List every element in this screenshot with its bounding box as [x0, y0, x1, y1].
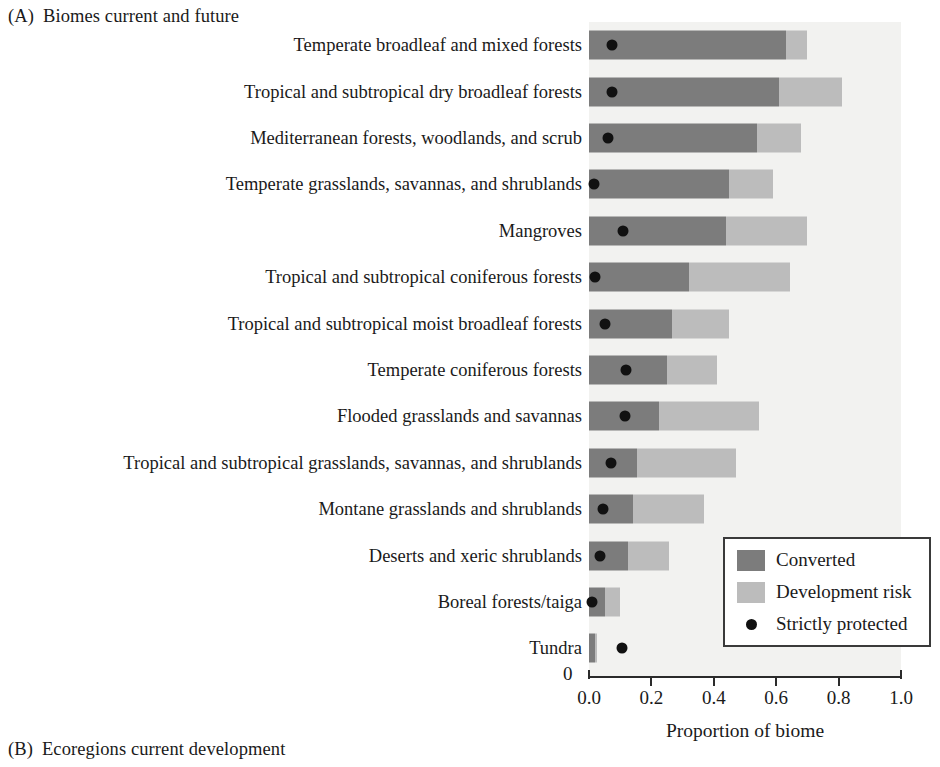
category-label: Tropical and subtropical grasslands, sav…: [123, 454, 582, 473]
bar-segment-development-risk: [729, 170, 773, 199]
category-label: Deserts and xeric shrublands: [369, 546, 582, 565]
bar-row: Temperate grasslands, savannas, and shru…: [0, 161, 940, 207]
strictly-protected-point: [602, 132, 613, 143]
y-axis-origin-label: 0: [563, 663, 573, 685]
bar-segment-development-risk: [637, 448, 735, 477]
panel-b-title-text: Ecoregions current development: [42, 739, 285, 759]
category-label: Temperate grasslands, savannas, and shru…: [226, 175, 582, 194]
legend-item-strictly-protected: Strictly protected: [737, 608, 907, 640]
x-tick-label-0: 0.0: [559, 687, 619, 709]
x-tick-2: [713, 677, 715, 686]
category-label: Boreal forests/taiga: [438, 593, 582, 612]
bar-row: Tropical and subtropical grasslands, sav…: [0, 440, 940, 486]
stacked-bar: [589, 263, 790, 292]
category-label: Flooded grasslands and savannas: [337, 407, 582, 426]
strictly-protected-point: [587, 596, 598, 607]
bar-row: Temperate coniferous forests: [0, 347, 940, 393]
category-label: Temperate coniferous forests: [368, 361, 582, 380]
legend-label-converted: Converted: [776, 549, 855, 571]
strictly-protected-point: [616, 643, 627, 654]
bar-row: Tropical and subtropical dry broadleaf f…: [0, 68, 940, 114]
strictly-protected-point: [594, 550, 605, 561]
strictly-protected-point: [599, 318, 610, 329]
category-label: Mediterranean forests, woodlands, and sc…: [250, 129, 582, 148]
bar-row: Tropical and subtropical coniferous fore…: [0, 254, 940, 300]
x-tick-label-3: 0.6: [746, 687, 806, 709]
strictly-protected-point: [598, 504, 609, 515]
x-axis-line: [588, 676, 901, 678]
bar-segment-development-risk: [757, 123, 801, 152]
strictly-protected-point: [618, 225, 629, 236]
strictly-protected-point: [607, 86, 618, 97]
stacked-bar: [589, 123, 801, 152]
x-tick-label-1: 0.2: [621, 687, 681, 709]
x-tick-5: [900, 670, 902, 679]
legend-swatch-strictly-protected-icon: [737, 614, 765, 635]
panel-b-title: (B)Ecoregions current development: [8, 739, 285, 760]
bar-row: Montane grasslands and shrublands: [0, 486, 940, 532]
bar-segment-development-risk: [633, 495, 705, 524]
legend-label-development-risk: Development risk: [776, 581, 912, 603]
x-tick-3: [775, 677, 777, 686]
strictly-protected-point: [619, 411, 630, 422]
strictly-protected-point: [590, 272, 601, 283]
strictly-protected-point: [605, 457, 616, 468]
bar-segment-development-risk: [786, 31, 808, 60]
category-label: Mangroves: [499, 222, 582, 241]
bar-segment-development-risk: [726, 216, 807, 245]
bar-segment-converted: [589, 31, 786, 60]
bar-segment-development-risk: [605, 587, 621, 616]
bar-segment-converted: [589, 495, 633, 524]
stacked-bar: [589, 31, 807, 60]
category-label: Tropical and subtropical coniferous fore…: [265, 268, 582, 287]
x-tick-label-5: 1.0: [871, 687, 931, 709]
x-axis-title: Proportion of biome: [589, 720, 901, 742]
bar-segment-development-risk: [659, 402, 759, 431]
bar-segment-converted: [589, 263, 689, 292]
bar-segment-development-risk: [628, 541, 669, 570]
legend-swatch-converted-icon: [737, 550, 765, 571]
x-tick-label-2: 0.4: [684, 687, 744, 709]
bar-row: Tropical and subtropical moist broadleaf…: [0, 300, 940, 346]
category-label: Montane grasslands and shrublands: [318, 500, 582, 519]
x-tick-0: [588, 670, 590, 679]
chart-legend: Converted Development risk Strictly prot…: [723, 537, 931, 647]
legend-label-strictly-protected: Strictly protected: [776, 613, 907, 635]
legend-swatch-development-risk-icon: [737, 582, 765, 603]
stacked-bar: [589, 634, 597, 663]
bar-segment-converted: [589, 123, 757, 152]
category-label: Tropical and subtropical moist broadleaf…: [228, 314, 582, 333]
bar-segment-converted: [589, 216, 726, 245]
stacked-bar: [589, 77, 842, 106]
bar-row: Mangroves: [0, 208, 940, 254]
category-label: Tundra: [529, 639, 582, 658]
strictly-protected-point: [621, 364, 632, 375]
category-label: Temperate broadleaf and mixed forests: [294, 36, 582, 55]
panel-b-tag: (B): [8, 739, 33, 759]
category-label: Tropical and subtropical dry broadleaf f…: [244, 82, 582, 101]
x-tick-4: [838, 677, 840, 686]
biomes-stacked-bar-chart: Temperate broadleaf and mixed forestsTro…: [0, 18, 940, 718]
x-tick-1: [650, 677, 652, 686]
bar-row: Flooded grasslands and savannas: [0, 393, 940, 439]
bar-segment-development-risk: [672, 309, 730, 338]
bar-segment-converted: [589, 170, 729, 199]
bar-segment-development-risk: [779, 77, 841, 106]
stacked-bar: [589, 170, 773, 199]
stacked-bar: [589, 355, 717, 384]
bar-segment-development-risk: [595, 634, 597, 663]
strictly-protected-point: [607, 40, 618, 51]
bar-segment-development-risk: [689, 263, 790, 292]
bar-segment-development-risk: [667, 355, 717, 384]
bar-row: Temperate broadleaf and mixed forests: [0, 22, 940, 68]
strictly-protected-point: [588, 179, 599, 190]
legend-item-development-risk: Development risk: [737, 576, 912, 608]
legend-item-converted: Converted: [737, 544, 855, 576]
x-tick-label-4: 0.8: [809, 687, 869, 709]
stacked-bar: [589, 402, 759, 431]
bar-row: Mediterranean forests, woodlands, and sc…: [0, 115, 940, 161]
